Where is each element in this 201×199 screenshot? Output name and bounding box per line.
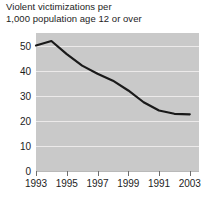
y-axis-tick-label: 40 — [20, 65, 31, 76]
x-axis-tick-mark — [159, 171, 160, 176]
x-axis-tick-mark — [67, 171, 68, 176]
x-axis-tick-label: 1995 — [56, 178, 78, 189]
data-line-svg — [36, 33, 199, 171]
x-axis-tick-label: 1993 — [25, 178, 47, 189]
x-axis-tick-label: 1997 — [86, 178, 108, 189]
data-line — [36, 41, 190, 114]
y-axis-tick-label: 20 — [20, 115, 31, 126]
x-axis-tick-label: 1999 — [117, 178, 139, 189]
x-axis-tick-mark — [98, 171, 99, 176]
x-axis-tick-mark — [128, 171, 129, 176]
y-axis: 01020304050 — [0, 33, 34, 171]
chart-title: Violent victimizations per 1,000 populat… — [6, 1, 196, 24]
y-axis-tick-label: 30 — [20, 90, 31, 101]
x-axis-tick-label: 2003 — [179, 178, 201, 189]
plot-area — [36, 33, 199, 171]
x-axis: 199319951997199919912003 — [36, 171, 199, 197]
chart-figure: Violent victimizations per 1,000 populat… — [0, 0, 201, 199]
x-axis-tick-label: 1991 — [148, 178, 170, 189]
x-axis-tick-mark — [36, 171, 37, 176]
y-axis-tick-label: 10 — [20, 140, 31, 151]
y-axis-tick-label: 50 — [20, 40, 31, 51]
x-axis-tick-mark — [190, 171, 191, 176]
y-axis-tick-label: 0 — [25, 166, 31, 177]
